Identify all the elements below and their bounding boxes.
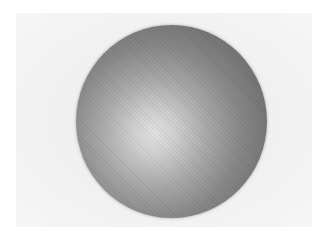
halftone-texture: [76, 25, 267, 218]
shaded-sphere: [76, 25, 267, 218]
